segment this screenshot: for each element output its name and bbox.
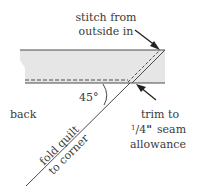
back-label: back <box>10 108 37 121</box>
stitch-label-line2: outside in <box>79 25 134 38</box>
trim-label-line1: trim to <box>141 108 180 121</box>
stitch-arrow-icon <box>135 30 160 50</box>
binding-diagram: stitch from outside in 45° back fold qui… <box>0 0 197 195</box>
angle-label: 45° <box>79 91 99 104</box>
angle-arc <box>103 84 107 105</box>
binding-strip <box>20 50 165 83</box>
trim-label-line2: 1/4"seam <box>131 123 187 136</box>
trim-arrow-icon <box>136 84 156 100</box>
stitch-label-line1: stitch from <box>75 11 137 24</box>
trim-label-line3: allowance <box>130 138 186 151</box>
